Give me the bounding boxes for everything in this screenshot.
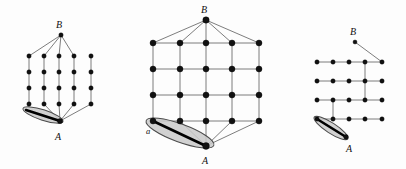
node-A (344, 135, 349, 140)
node (177, 92, 183, 98)
node (57, 70, 61, 74)
edge-apex (206, 20, 232, 43)
node (89, 86, 93, 90)
label-B-middle: B (201, 4, 207, 15)
node (229, 66, 235, 72)
node (229, 40, 235, 46)
panel-middle: B A a (143, 4, 262, 166)
node (177, 66, 183, 72)
node (177, 118, 183, 124)
node (331, 98, 335, 102)
node (256, 118, 262, 124)
label-A-left: A (54, 131, 62, 142)
panel-right: B A (311, 26, 384, 154)
node (347, 60, 351, 64)
node (363, 79, 367, 83)
edge-apex (44, 35, 61, 56)
node-A (203, 143, 210, 150)
edge-apex (61, 35, 74, 56)
diagram-canvas: B A (0, 0, 406, 169)
node (256, 40, 262, 46)
node (27, 86, 31, 90)
edge-apex (59, 35, 61, 56)
node (315, 98, 319, 102)
node (256, 66, 262, 72)
edge-apex (355, 42, 382, 62)
node (315, 60, 319, 64)
panel-left: B A (21, 19, 93, 142)
node (42, 102, 46, 106)
edge-apex (153, 20, 206, 43)
node (27, 70, 31, 74)
node-A (57, 118, 62, 123)
node (72, 102, 76, 106)
node (229, 118, 235, 124)
node (203, 40, 209, 46)
label-A-middle: A (201, 155, 209, 166)
edge-sink (60, 104, 91, 121)
node (150, 66, 156, 72)
label-B-right: B (350, 26, 356, 37)
node (347, 79, 351, 83)
label-a-middle: a (146, 126, 150, 136)
node (57, 102, 61, 106)
node (42, 54, 46, 58)
node-B (59, 33, 63, 37)
node-B (353, 40, 357, 44)
node-a (315, 117, 319, 121)
node (256, 92, 262, 98)
node (89, 70, 93, 74)
edge-apex (180, 20, 206, 43)
node (42, 70, 46, 74)
node-a (150, 118, 156, 124)
node (72, 86, 76, 90)
node (57, 54, 61, 58)
label-A-right: A (345, 143, 353, 154)
edge-sink (206, 121, 259, 146)
node-a (27, 102, 31, 106)
node (331, 79, 335, 83)
node (203, 92, 209, 98)
node (363, 60, 367, 64)
node (363, 98, 367, 102)
node (89, 54, 93, 58)
node (203, 118, 209, 124)
node (177, 40, 183, 46)
node-B (203, 17, 209, 23)
node (331, 117, 335, 121)
node (331, 60, 335, 64)
node (315, 79, 319, 83)
node (380, 117, 384, 121)
node (347, 98, 351, 102)
label-B-left: B (56, 19, 62, 30)
node (150, 92, 156, 98)
edge-apex (206, 20, 259, 43)
node (42, 86, 46, 90)
node (72, 70, 76, 74)
edge-apex (29, 35, 61, 56)
node (57, 86, 61, 90)
node (72, 54, 76, 58)
node (203, 66, 209, 72)
node (347, 117, 351, 121)
node (150, 40, 156, 46)
node (229, 92, 235, 98)
node (380, 79, 384, 83)
node (363, 117, 367, 121)
node (380, 98, 384, 102)
node (27, 54, 31, 58)
figure-root: B A (0, 0, 406, 169)
node (89, 102, 93, 106)
node (380, 60, 384, 64)
